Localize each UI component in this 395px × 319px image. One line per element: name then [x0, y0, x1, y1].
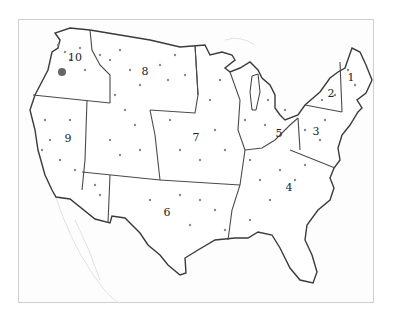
- region-label-8: 8: [142, 65, 149, 78]
- region-label-5: 5: [276, 127, 283, 140]
- region-label-7: 7: [193, 131, 200, 144]
- region-label-2: 2: [328, 87, 335, 100]
- us-outline: [30, 28, 372, 283]
- region-label-6: 6: [164, 206, 171, 219]
- us-regions-map: [0, 0, 395, 319]
- region-label-10: 10: [68, 51, 82, 64]
- region-label-3: 3: [313, 125, 320, 138]
- region-label-4: 4: [286, 181, 293, 194]
- region-label-1: 1: [348, 71, 355, 84]
- region-label-9: 9: [65, 132, 72, 145]
